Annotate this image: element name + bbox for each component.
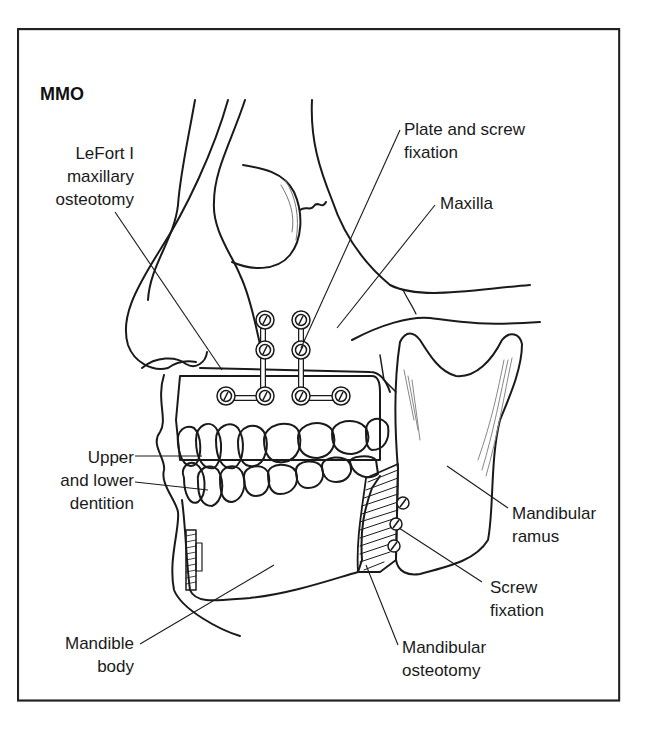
frame-border [17, 28, 620, 702]
